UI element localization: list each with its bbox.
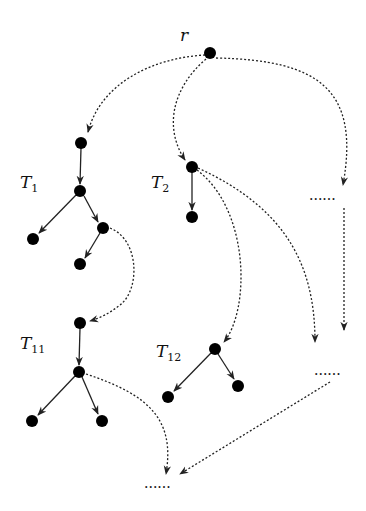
labels: r T1 T2 T11 T12 ...... ...... ......: [20, 25, 341, 491]
node-t1-b: [74, 185, 86, 197]
edge-t11b-t11d: [82, 377, 98, 414]
edge-t1d-t1e: [85, 233, 100, 258]
node-t11-leaf-left: [26, 415, 38, 427]
node-t11-leaf-right: [96, 415, 108, 427]
dotted-edge-t2-t12: [197, 170, 241, 342]
node-t1-root: [75, 137, 87, 149]
node-t1-leaf-left: [27, 233, 39, 245]
dotted-edge-r-t1: [88, 55, 205, 132]
node-t11-b: [73, 366, 85, 378]
dotted-edge-right-bottom: [180, 382, 330, 474]
edge-t11b-t11c: [38, 376, 75, 415]
root-label: r: [180, 25, 189, 45]
ellipsis-right-top: ......: [309, 187, 336, 203]
node-t1-leaf-e: [74, 258, 86, 270]
edge-t1b-t1c: [39, 195, 76, 233]
node-t2-leaf: [186, 211, 198, 223]
tree-diagram: r T1 T2 T11 T12 ...... ...... ......: [0, 0, 366, 511]
dotted-edges: [86, 55, 347, 474]
dotted-edge-r-right: [216, 58, 347, 185]
node-t12-root: [209, 343, 221, 355]
node-t12-leaf-right: [232, 380, 244, 392]
node-t11-root: [74, 317, 86, 329]
node-t2-root: [186, 161, 198, 173]
nodes: [26, 47, 244, 427]
label-t2: T2: [151, 172, 169, 195]
node-root: [204, 47, 216, 59]
label-t1: T1: [20, 172, 38, 195]
dotted-edge-t2-right: [198, 168, 315, 342]
solid-edges: [38, 148, 234, 415]
ellipsis-bottom: ......: [144, 475, 171, 491]
node-t1-d: [97, 222, 109, 234]
edge-t1a-t1b: [80, 148, 81, 184]
node-t12-leaf-left: [162, 391, 174, 403]
edge-t1b-t1d: [84, 196, 98, 222]
label-t12: T12: [156, 341, 181, 364]
edge-t12a-t12c: [218, 354, 234, 379]
dotted-edge-t1-t11: [90, 228, 134, 321]
dotted-edge-r-t2: [173, 59, 206, 160]
label-t11: T11: [20, 333, 45, 356]
ellipsis-right-mid: ......: [314, 362, 341, 378]
edge-t11a-t11b: [79, 328, 80, 365]
